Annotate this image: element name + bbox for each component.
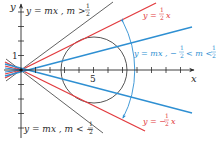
svg-text:2: 2 bbox=[165, 120, 169, 127]
origin-point bbox=[19, 68, 22, 71]
svg-text:y =: y = bbox=[142, 11, 157, 20]
svg-text:2: 2 bbox=[89, 128, 93, 135]
svg-text:2: 2 bbox=[160, 14, 164, 21]
x-axis-label: x bbox=[191, 73, 197, 84]
svg-text:2: 2 bbox=[212, 52, 216, 59]
svg-text:1: 1 bbox=[165, 112, 169, 119]
svg-text:y = −: y = − bbox=[142, 117, 166, 126]
svg-text:2: 2 bbox=[86, 10, 90, 17]
svg-text:y = mx , −: y = mx , − bbox=[133, 49, 177, 58]
label-blue-range: y = mx , − 1 2 < m < 1 2 bbox=[133, 44, 216, 59]
red-tangent-line-lower bbox=[5, 62, 145, 131]
svg-text:1: 1 bbox=[212, 44, 216, 51]
y-tick-label-1: 1 bbox=[12, 51, 18, 61]
svg-text:1: 1 bbox=[86, 2, 90, 9]
svg-text:2: 2 bbox=[180, 52, 184, 59]
svg-text:x: x bbox=[171, 117, 176, 126]
line-family-diagram: x y 5 1 y = mx , m > 1 2 y = mx , m < − … bbox=[0, 0, 219, 141]
label-lower-red: y = − 1 2 x bbox=[142, 112, 176, 127]
svg-text:y = mx , m < −: y = mx , m < − bbox=[23, 124, 94, 134]
label-upper-black: y = mx , m > 1 2 bbox=[25, 2, 90, 17]
svg-text:1: 1 bbox=[180, 44, 184, 51]
y-axis-label: y bbox=[9, 1, 16, 12]
svg-text:y = mx , m >: y = mx , m > bbox=[25, 6, 85, 16]
svg-text:1: 1 bbox=[89, 120, 93, 127]
label-lower-black: y = mx , m < − 1 2 bbox=[23, 120, 94, 135]
x-tick-label-5: 5 bbox=[90, 74, 96, 84]
blue-line-lower bbox=[5, 64, 192, 113]
svg-text:1: 1 bbox=[160, 6, 164, 13]
svg-text:x: x bbox=[166, 11, 171, 20]
svg-text:< m <: < m < bbox=[186, 49, 212, 58]
